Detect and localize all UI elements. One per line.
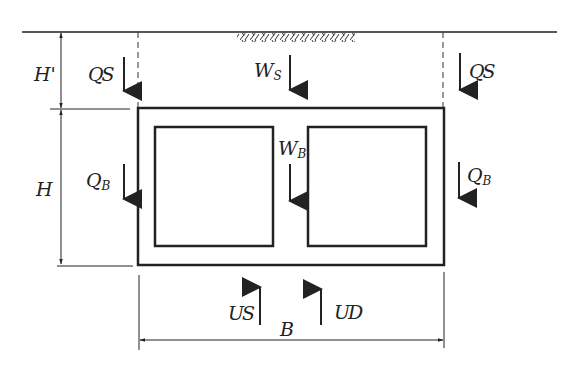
uplift-static-label: US: [228, 302, 255, 324]
box-width-label: B: [279, 318, 294, 340]
box-cell-right: [308, 127, 426, 246]
soil-hatch: [237, 33, 355, 42]
side-friction-soil-left-label: QS: [88, 63, 115, 85]
cover-depth-label: H': [33, 63, 56, 85]
box-cell-left: [155, 127, 273, 246]
side-friction-soil-right-label: QS: [469, 60, 496, 82]
soil-weight-label: WS: [254, 59, 282, 83]
box-height-label: H: [35, 178, 53, 200]
box-weight-label: WB: [278, 137, 307, 161]
side-friction-box-left-label: QB: [86, 169, 111, 193]
side-friction-box-right-label: QB: [467, 164, 492, 188]
uplift-dynamic-label: UD: [334, 301, 363, 323]
box-culvert-diagram: H' H B QS WS QS QB WB QB US UD: [0, 0, 582, 371]
